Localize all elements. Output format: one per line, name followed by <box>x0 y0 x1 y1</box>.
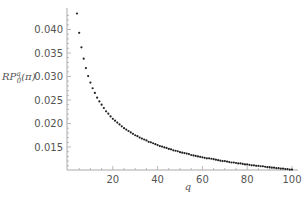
y-tick-label: 0.020 <box>34 118 63 129</box>
data-point <box>273 167 275 169</box>
x-axis-title: q <box>185 181 191 192</box>
data-point <box>280 168 282 170</box>
data-point <box>213 158 215 160</box>
data-point <box>127 130 129 132</box>
data-point <box>224 160 226 162</box>
data-point <box>118 123 120 125</box>
data-point <box>107 113 109 115</box>
data-point <box>226 160 228 162</box>
data-point <box>152 142 154 144</box>
x-tick-label: 40 <box>151 174 164 185</box>
data-point <box>177 150 179 152</box>
data-point <box>188 153 190 155</box>
data-point <box>143 138 145 140</box>
y-tick-label: 0.015 <box>34 142 63 153</box>
data-point <box>233 161 235 163</box>
data-point <box>275 167 277 169</box>
data-point <box>181 152 183 154</box>
data-point <box>253 164 255 166</box>
data-point <box>112 118 114 120</box>
data-point <box>271 167 273 169</box>
data-point <box>239 162 241 164</box>
data-point <box>221 160 223 162</box>
data-point <box>139 137 141 139</box>
data-point <box>266 166 268 168</box>
data-point <box>262 165 264 167</box>
data-point <box>165 147 167 149</box>
data-point <box>264 166 266 168</box>
data-point <box>289 168 291 170</box>
data-point <box>154 143 156 145</box>
data-point <box>101 104 103 106</box>
data-point <box>204 157 206 159</box>
scatter-chart: 0.0150.0200.0250.0300.0350.040 204060801… <box>0 0 308 200</box>
data-point <box>242 163 244 165</box>
data-point <box>291 168 293 170</box>
data-point <box>78 32 80 34</box>
data-point <box>251 164 253 166</box>
data-point <box>136 135 138 137</box>
data-point <box>132 133 134 135</box>
data-point <box>145 139 147 141</box>
data-point <box>284 168 286 170</box>
data-point <box>228 161 230 163</box>
data-point <box>215 159 217 161</box>
data-point <box>159 145 161 147</box>
data-point <box>161 145 163 147</box>
x-tick-label: 60 <box>196 174 209 185</box>
data-point <box>150 141 152 143</box>
data-point <box>163 146 165 148</box>
data-point <box>269 166 271 168</box>
data-point <box>130 131 132 133</box>
data-point <box>114 120 116 122</box>
data-point <box>208 157 210 159</box>
data-point <box>89 82 91 84</box>
x-tick-label: 80 <box>241 174 254 185</box>
data-point <box>103 107 105 109</box>
y-axis-title: RPq0(π) <box>1 70 36 85</box>
data-point <box>125 129 127 131</box>
data-point <box>199 156 201 158</box>
data-point <box>116 121 118 123</box>
y-axis: 0.0150.0200.0250.0300.0350.040 <box>34 8 71 170</box>
data-point <box>172 149 174 151</box>
data-point <box>190 154 192 156</box>
y-tick-label: 0.040 <box>34 24 63 35</box>
data-point <box>255 165 257 167</box>
y-tick-label: 0.035 <box>34 48 63 59</box>
data-point <box>244 163 246 165</box>
data-point <box>83 58 85 60</box>
data-points <box>76 12 293 170</box>
data-point <box>94 92 96 94</box>
data-point <box>174 150 176 152</box>
data-point <box>197 155 199 157</box>
data-point <box>206 157 208 159</box>
y-tick-label: 0.025 <box>34 95 63 106</box>
data-point <box>201 156 203 158</box>
data-point <box>235 162 237 164</box>
data-point <box>217 159 219 161</box>
data-point <box>257 165 259 167</box>
data-point <box>157 144 159 146</box>
data-point <box>219 160 221 162</box>
data-point <box>85 67 87 69</box>
data-point <box>277 167 279 169</box>
data-point <box>168 148 170 150</box>
data-point <box>148 141 150 143</box>
data-point <box>195 155 197 157</box>
y-tick-label: 0.030 <box>34 71 63 82</box>
data-point <box>248 164 250 166</box>
data-point <box>92 87 94 89</box>
data-point <box>109 115 111 117</box>
data-point <box>210 158 212 160</box>
data-point <box>98 100 100 102</box>
x-tick-label: 100 <box>282 174 301 185</box>
data-point <box>260 165 262 167</box>
x-tick-label: 20 <box>106 174 119 185</box>
data-point <box>286 168 288 170</box>
data-point <box>179 151 181 153</box>
data-point <box>105 110 107 112</box>
data-point <box>183 152 185 154</box>
data-point <box>76 12 78 14</box>
data-point <box>186 152 188 154</box>
